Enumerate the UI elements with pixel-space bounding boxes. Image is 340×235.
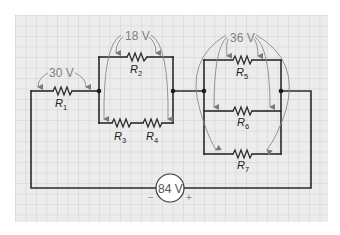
source-label: 84 V: [158, 182, 183, 196]
junction-node: [171, 89, 176, 94]
circuit-diagram: R1 R2 R3 R4: [0, 0, 340, 235]
voltage-label-18v: 18 V: [125, 29, 150, 43]
negative-terminal-sign: −: [148, 192, 154, 203]
positive-terminal-sign: +: [186, 192, 192, 203]
junction-node: [279, 89, 284, 94]
voltage-label-36v: 36 V: [230, 31, 255, 45]
junction-node: [97, 89, 102, 94]
voltage-label-30v: 30 V: [49, 66, 74, 80]
junction-node: [202, 89, 207, 94]
